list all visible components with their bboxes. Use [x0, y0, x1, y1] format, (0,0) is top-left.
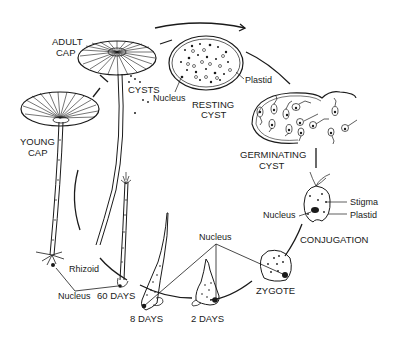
label-conjugation: CONJUGATION	[300, 234, 369, 245]
conjugation-gamete-illustration	[299, 172, 347, 222]
label-zygote: ZYGOTE	[256, 285, 295, 296]
acetabularia-life-cycle-diagram: ADULT CAP CYSTS Nucleus Plastid RESTIN	[0, 0, 397, 346]
label-young-cap-line1: YOUNG	[20, 136, 55, 147]
label-young-cap-line2: CAP	[28, 147, 48, 158]
label-germinating-cyst-line2: CYST	[259, 160, 285, 171]
label-rhizoid-nucleus: Nucleus	[58, 291, 91, 301]
label-gamete-plastid: Plastid	[350, 210, 377, 220]
label-resting-cyst-line2: CYST	[201, 109, 227, 120]
label-60-days: 60 DAYS	[97, 290, 135, 301]
label-resting-nucleus: Nucleus	[153, 93, 186, 103]
label-early-nucleus: Nucleus	[199, 232, 232, 242]
germinating-cyst-illustration	[252, 92, 357, 144]
rhizoid-illustration	[36, 252, 64, 267]
label-2-days: 2 DAYS	[191, 313, 224, 324]
label-resting-plastid: Plastid	[245, 75, 272, 85]
eight-day-cell-illustration	[142, 213, 169, 310]
young-cap-illustration	[21, 92, 99, 255]
label-gamete-stigma: Stigma	[350, 197, 378, 207]
label-germinating-cyst-line1: GERMINATING	[240, 149, 306, 160]
label-gamete-nucleus: Nucleus	[263, 210, 296, 220]
label-8-days: 8 DAYS	[130, 313, 163, 324]
label-adult-cap-line1: ADULT	[52, 36, 83, 47]
sixty-day-stalk-illustration	[117, 172, 131, 288]
two-day-cell-illustration	[192, 259, 219, 306]
label-adult-cap-line2: CAP	[56, 47, 76, 58]
adult-cap-illustration	[78, 41, 156, 245]
label-rhizoid: Rhizoid	[69, 264, 99, 274]
resting-cyst-illustration	[169, 36, 244, 92]
